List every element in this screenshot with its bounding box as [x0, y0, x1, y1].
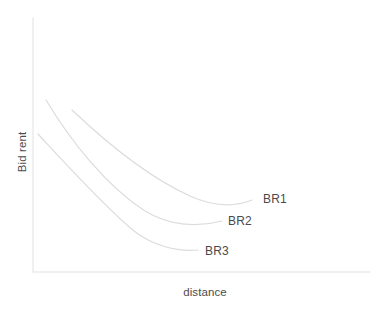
curve-label-br3: BR3 [205, 244, 229, 258]
curve-label-br2: BR2 [228, 214, 252, 228]
curve-br3 [38, 134, 198, 250]
y-axis-label: Bid rent [16, 130, 28, 174]
x-axis-label: distance [160, 286, 250, 298]
chart-plot-area [0, 0, 382, 311]
curve-label-br1: BR1 [263, 192, 287, 206]
curve-br1 [72, 110, 252, 205]
bid-rent-chart-figure: Bid rent distance BR1 BR2 BR3 [0, 0, 382, 311]
